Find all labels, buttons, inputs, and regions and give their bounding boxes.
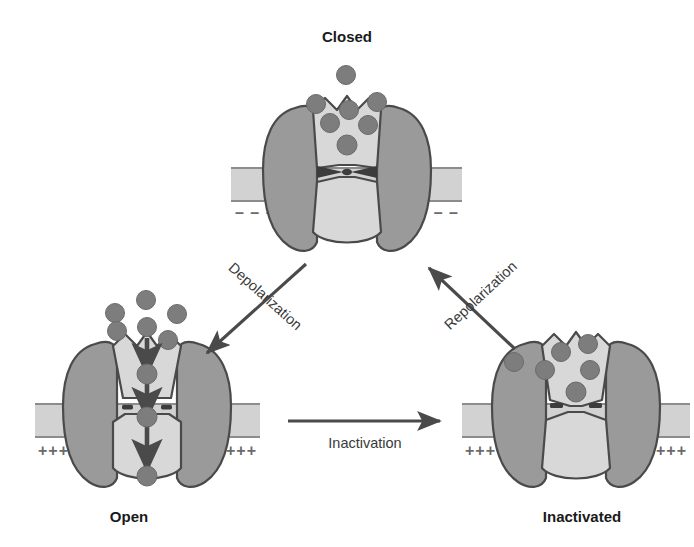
ion	[340, 101, 359, 120]
ion	[108, 322, 127, 341]
ion	[581, 361, 600, 380]
state-open: ++++ ++++ Open	[35, 291, 260, 526]
state-closed: Closed – – – – – – – –	[231, 28, 462, 251]
ion	[321, 114, 340, 133]
ion-in-vestibule	[137, 364, 157, 384]
ion	[137, 291, 156, 310]
ion-in-vestibule	[337, 135, 357, 155]
ion	[159, 331, 178, 350]
repolarization-label: Repolarization	[441, 258, 520, 333]
ion	[552, 343, 571, 362]
transition-inactivation: Inactivation	[288, 421, 440, 451]
ion-at-gate	[137, 407, 157, 427]
state-inactivated: ++++ ++++ Inactivated	[462, 332, 690, 525]
ion	[307, 95, 326, 114]
transition-depolarization: Depolarization	[207, 259, 306, 353]
ion	[359, 116, 378, 135]
ion	[536, 361, 555, 380]
ion	[579, 335, 598, 354]
state-label-inactivated: Inactivated	[543, 508, 621, 525]
inactivation-label: Inactivation	[328, 435, 401, 451]
ion	[106, 304, 125, 323]
transition-repolarization: Repolarization	[429, 258, 520, 349]
ion	[168, 305, 187, 324]
ion-in-vestibule	[566, 382, 586, 402]
ion-channel-diagram: Closed – – – – – – – –	[0, 0, 694, 547]
ion-released	[137, 466, 157, 486]
ion	[337, 66, 356, 85]
state-label-closed: Closed	[322, 28, 372, 45]
depolarization-label: Depolarization	[226, 259, 306, 333]
state-label-open: Open	[110, 508, 148, 525]
ion	[505, 353, 524, 372]
ion	[138, 318, 157, 337]
ion	[368, 93, 387, 112]
